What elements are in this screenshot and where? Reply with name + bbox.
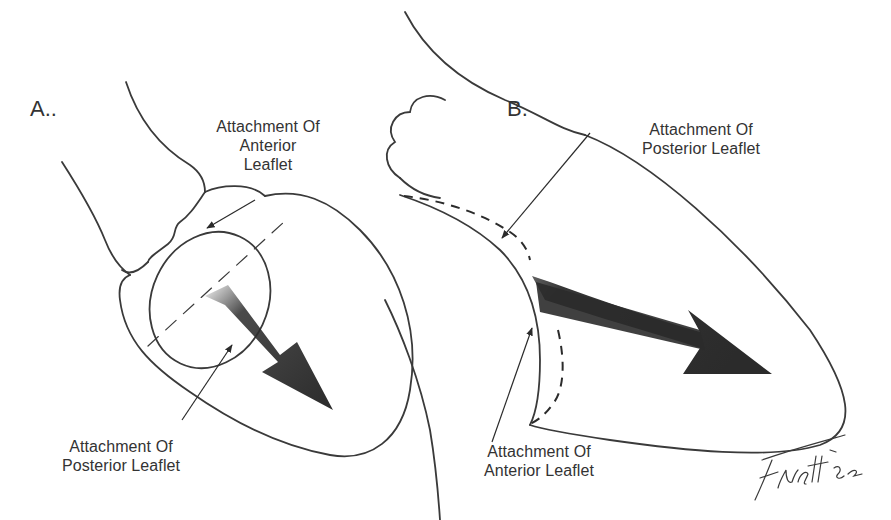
pointer-anterior-a [207,200,255,228]
label-line: Attachment Of [630,120,772,139]
label-line: Attachment Of [205,117,331,136]
pointer-posterior-a [182,345,232,420]
label-line: Leaflet [205,155,331,174]
panel-a-letter: A.. [30,96,57,122]
panel-b-letter: B. [507,96,528,122]
label-line: Anterior [205,136,331,155]
label-line: Posterior Leaflet [50,456,192,475]
pointer-posterior-b [502,133,590,238]
label-anterior-leaflet-a: Attachment Of Anterior Leaflet [205,117,331,174]
label-posterior-leaflet-a: Attachment Of Posterior Leaflet [50,437,192,475]
label-posterior-leaflet-b: Attachment Of Posterior Leaflet [630,120,772,158]
pointer-anterior-b [492,328,532,442]
artist-signature [750,430,880,510]
label-line: Posterior Leaflet [630,139,772,158]
label-line: Attachment Of [50,437,192,456]
label-anterior-leaflet-b: Attachment Of Anterior Leaflet [472,442,606,480]
flow-arrow-b-shaft [536,282,705,350]
label-line: Attachment Of [472,442,606,461]
label-line: Anterior Leaflet [472,461,606,480]
